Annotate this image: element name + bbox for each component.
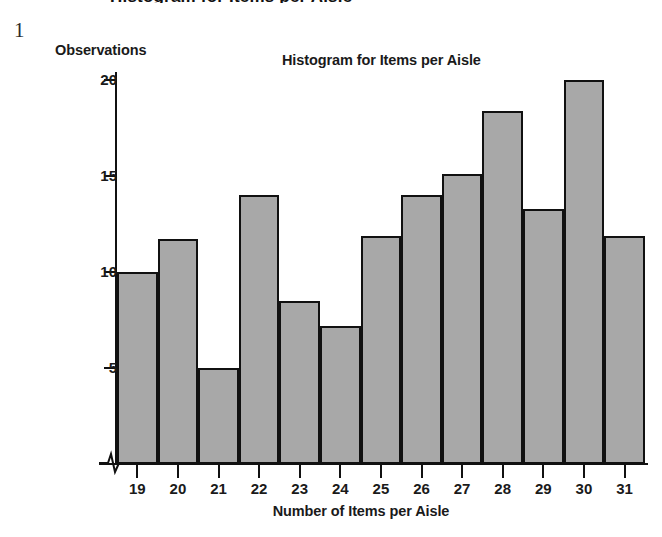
histogram-bar <box>117 272 158 464</box>
histogram-bar <box>279 301 320 464</box>
y-tick-label: 5 <box>73 360 117 375</box>
x-tick-label: 22 <box>239 481 279 498</box>
x-tick-label: 24 <box>320 481 360 498</box>
x-tick-mark <box>136 465 138 478</box>
x-tick-mark <box>258 465 260 478</box>
x-tick-mark <box>502 465 504 478</box>
x-tick-label: 19 <box>117 481 157 498</box>
x-tick-label: 30 <box>564 481 604 498</box>
x-tick-mark <box>583 465 585 478</box>
y-tick-label: 20 <box>73 72 117 87</box>
x-tick-mark <box>421 465 423 478</box>
histogram-bar <box>239 195 280 464</box>
x-tick-label: 27 <box>442 481 482 498</box>
x-tick-label: 25 <box>361 481 401 498</box>
histogram-figure: Observations Histogram for Items per Ais… <box>0 0 662 537</box>
histogram-bar <box>158 239 199 464</box>
x-tick-label: 23 <box>280 481 320 498</box>
x-tick-label: 29 <box>523 481 563 498</box>
x-tick-label: 21 <box>199 481 239 498</box>
x-tick-label: 20 <box>158 481 198 498</box>
x-tick-mark <box>339 465 341 478</box>
x-tick-label: 28 <box>483 481 523 498</box>
x-tick-mark <box>542 465 544 478</box>
y-tick-label: 10 <box>73 264 117 279</box>
histogram-bar <box>198 368 239 464</box>
x-tick-mark <box>380 465 382 478</box>
histogram-bar <box>320 326 361 464</box>
x-axis-title: Number of Items per Aisle <box>0 503 662 519</box>
x-tick-mark <box>461 465 463 478</box>
x-tick-label: 31 <box>605 481 645 498</box>
histogram-bar <box>401 195 442 464</box>
histogram-bar <box>523 209 564 464</box>
x-tick-mark <box>218 465 220 478</box>
y-axis-title: Observations <box>55 42 146 58</box>
x-tick-mark <box>299 465 301 478</box>
page-canvas: Histogram for Items per Aisle 1 Observat… <box>0 0 662 537</box>
histogram-bar <box>482 111 523 464</box>
y-tick-label: 15 <box>73 168 117 183</box>
histogram-bar <box>564 80 605 464</box>
histogram-bar <box>442 174 483 464</box>
x-tick-mark <box>177 465 179 478</box>
histogram-bar <box>604 236 645 464</box>
axis-break-icon <box>99 447 133 479</box>
x-tick-mark <box>624 465 626 478</box>
chart-title: Histogram for Items per Aisle <box>282 52 481 68</box>
x-tick-label: 26 <box>402 481 442 498</box>
histogram-bar <box>361 236 402 464</box>
